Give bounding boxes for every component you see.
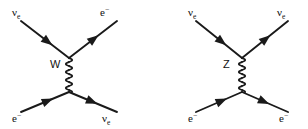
boson-label-Z: Z (223, 58, 230, 70)
arrow-head-icon (41, 99, 53, 107)
feynman-diagram-svg: νee−e−νeWνeνee−e−Z (0, 0, 308, 129)
leg-incoming-electron-bottom-left: e− (188, 92, 242, 124)
boson-propagator-W (66, 58, 72, 92)
arrow-head-icon (87, 35, 99, 46)
leg-outgoing-electron-bottom-right: e− (242, 92, 288, 124)
boson-propagator-Z (239, 58, 245, 92)
diagram-neutral-current: νeνee−e−Z (188, 6, 288, 124)
boson-label-W: W (50, 58, 61, 70)
leg-outgoing-neutrino-bottom-right: νe (69, 92, 117, 127)
particle-label-nu_e: νe (277, 6, 286, 21)
particle-label-e_minus: e− (279, 111, 288, 124)
leg-incoming-neutrino-top-left: νe (188, 6, 242, 58)
particle-label-nu_e: νe (188, 6, 197, 21)
particle-label-nu_e: νe (102, 112, 111, 127)
particle-label-e_minus: e− (188, 111, 197, 124)
leg-outgoing-neutrino-top-right: νe (242, 6, 288, 58)
arrow-head-icon (257, 95, 269, 104)
leg-outgoing-electron-top-right: e− (69, 5, 117, 58)
arrow-head-icon (85, 95, 97, 103)
leg-incoming-neutrino-top-left: νe (12, 6, 69, 58)
arrow-head-icon (41, 35, 53, 46)
arrow-head-icon (215, 99, 227, 108)
feynman-diagram-figure: νee−e−νeWνeνee−e−Z (0, 0, 308, 129)
particle-label-e_minus: e− (12, 111, 21, 124)
leg-incoming-electron-bottom-left: e− (12, 92, 69, 124)
particle-label-nu_e: νe (12, 6, 21, 21)
diagram-charged-current: νee−e−νeW (12, 5, 117, 127)
particle-label-e_minus: e− (100, 5, 109, 18)
